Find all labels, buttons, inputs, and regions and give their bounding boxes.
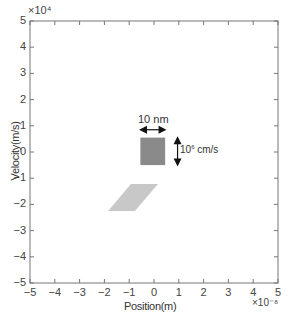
height-annotation-unit: cm/s bbox=[194, 144, 218, 155]
x-tick-label: −3 bbox=[68, 286, 92, 298]
x-axis-multiplier: ×10⁻⁸ bbox=[252, 297, 278, 308]
dark-square-distribution bbox=[140, 138, 165, 166]
width-annotation-label: 10 nm bbox=[138, 113, 169, 125]
arrowhead-down-icon bbox=[175, 159, 181, 165]
y-axis-multiplier: ×10⁴ bbox=[28, 4, 51, 16]
light-parallelogram-distribution bbox=[108, 184, 158, 211]
y-axis-label: Velocity(m/s) bbox=[9, 106, 21, 196]
x-tick-label: −1 bbox=[117, 286, 141, 298]
y-tick-label: −2 bbox=[4, 197, 26, 209]
y-tick-label: 5 bbox=[4, 14, 26, 26]
x-tick-label: 2 bbox=[192, 286, 216, 298]
x-tick-label: 1 bbox=[167, 286, 191, 298]
arrowhead-up-icon bbox=[175, 138, 181, 144]
height-annotation-label: 106 cm/s bbox=[180, 144, 218, 155]
y-tick-label: 3 bbox=[4, 66, 26, 78]
y-tick-label: −3 bbox=[4, 224, 26, 236]
x-tick-label: −4 bbox=[43, 286, 67, 298]
arrowhead-right-icon bbox=[159, 127, 165, 133]
x-tick-label: 3 bbox=[216, 286, 240, 298]
y-tick-label: 2 bbox=[4, 93, 26, 105]
chart-canvas bbox=[0, 0, 288, 321]
arrowhead-left-icon bbox=[140, 127, 146, 133]
x-axis-label: Position(m) bbox=[124, 300, 176, 312]
y-tick-label: 4 bbox=[4, 40, 26, 52]
y-tick-label: −4 bbox=[4, 250, 26, 262]
height-annotation-base: 10 bbox=[180, 144, 191, 155]
x-tick-label: −5 bbox=[18, 286, 42, 298]
x-tick-label: 0 bbox=[142, 286, 166, 298]
x-tick-label: −2 bbox=[92, 286, 116, 298]
